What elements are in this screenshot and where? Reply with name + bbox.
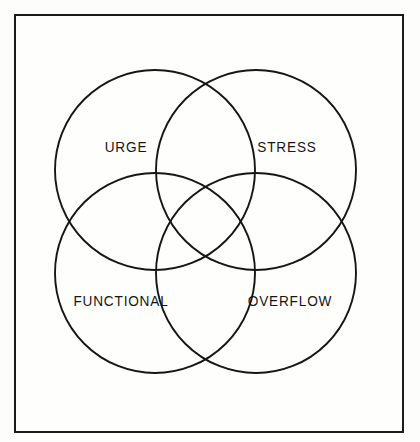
venn-label-overflow: OVERFLOW — [248, 292, 332, 310]
figure-canvas: URGE STRESS FUNCTIONAL OVERFLOW — [0, 0, 420, 442]
venn-circle-functional — [55, 173, 255, 373]
venn-circle-stress — [156, 70, 356, 270]
venn-diagram — [0, 0, 420, 442]
venn-label-stress: STRESS — [257, 138, 316, 156]
venn-circle-overflow — [156, 173, 356, 373]
venn-circle-urge — [55, 70, 255, 270]
venn-label-functional: FUNCTIONAL — [73, 292, 168, 310]
venn-label-urge: URGE — [105, 138, 148, 156]
